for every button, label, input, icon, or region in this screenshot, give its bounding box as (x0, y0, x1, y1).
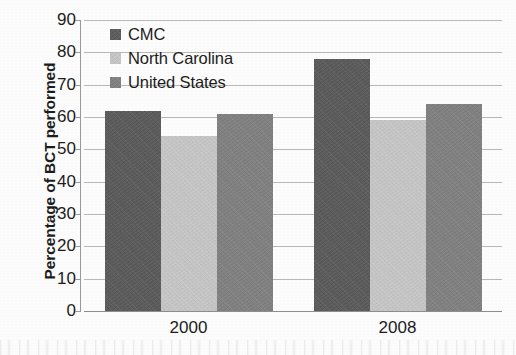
legend-swatch-texture (110, 53, 121, 64)
legend-item-cmc: CMC (110, 22, 233, 46)
y-tick-mark-0 (75, 311, 81, 312)
bar-texture (161, 136, 217, 311)
bar-texture (370, 120, 426, 311)
gridline-0 (84, 311, 502, 312)
x-tick-label-2000: 2000 (129, 318, 249, 338)
y-tick-label-70: 70 (34, 76, 76, 93)
y-tick-mark-20 (75, 246, 81, 247)
bar-united-states-2008 (426, 104, 482, 311)
legend-swatch-icon (110, 29, 121, 40)
y-tick-mark-90 (75, 20, 81, 21)
bar-texture (217, 114, 273, 311)
bar-united-states-2000 (217, 114, 273, 311)
bar-north-carolina-2008 (370, 120, 426, 311)
y-tick-mark-80 (75, 52, 81, 53)
y-tick-label-40: 40 (34, 173, 76, 190)
legend-item-united-states: United States (110, 70, 233, 94)
scan-speckle-artifact (0, 340, 516, 355)
legend-label: CMC (128, 25, 165, 44)
y-tick-mark-40 (75, 182, 81, 183)
y-tick-label-50: 50 (34, 140, 76, 157)
legend-swatch-icon (110, 77, 121, 88)
legend-swatch-texture (110, 77, 121, 88)
bar-north-carolina-2000 (161, 136, 217, 311)
legend-item-north-carolina: North Carolina (110, 46, 233, 70)
legend-swatch-icon (110, 53, 121, 64)
y-tick-label-0: 0 (34, 302, 76, 319)
y-tick-label-80: 80 (34, 43, 76, 60)
chart-legend: CMCNorth CarolinaUnited States (110, 22, 233, 94)
y-tick-mark-30 (75, 214, 81, 215)
y-tick-mark-50 (75, 149, 81, 150)
bar-cmc-2008 (314, 59, 370, 311)
y-axis-tick-labels: 0102030405060708090 (24, 0, 76, 355)
x-tick-label-2008: 2008 (338, 318, 458, 338)
bar-texture (314, 59, 370, 311)
y-tick-label-60: 60 (34, 108, 76, 125)
y-tick-label-10: 10 (34, 270, 76, 287)
y-tick-label-30: 30 (34, 205, 76, 222)
y-tick-mark-60 (75, 117, 81, 118)
legend-swatch-texture (110, 29, 121, 40)
bar-texture (426, 104, 482, 311)
y-tick-mark-10 (75, 279, 81, 280)
y-tick-mark-70 (75, 85, 81, 86)
y-axis-line (80, 20, 81, 311)
legend-label: North Carolina (128, 49, 233, 68)
legend-label: United States (128, 73, 226, 92)
y-tick-label-20: 20 (34, 237, 76, 254)
y-tick-label-90: 90 (34, 11, 76, 28)
bar-chart-figure: Percentage of BCT performed 010203040506… (0, 0, 516, 355)
bar-cmc-2000 (105, 111, 161, 311)
bar-texture (105, 111, 161, 311)
